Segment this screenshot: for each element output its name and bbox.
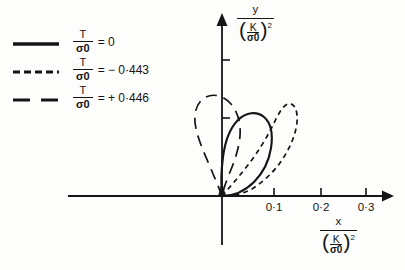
x-axis-title-numerator: x [330,216,348,230]
fraction-t-over-sigma0: T σ0 [73,29,93,54]
fraction-denominator: σ0 [73,42,93,54]
legend: T σ0 = 0 T σ0 = − 0·443 [12,32,182,116]
solid-line-sample [12,41,60,47]
y-axis-title-numerator: y [247,4,265,18]
legend-value: = + 0·446 [98,91,149,105]
inner-numerator: K [250,22,257,33]
fraction-denominator: σ0 [73,70,93,82]
long-dashed-line-sample [12,97,60,103]
legend-item-t-zero: T σ0 = 0 [12,32,182,60]
y-axis-arrow-icon [217,13,228,26]
legend-label-t-positive: T σ0 = + 0·446 [72,85,149,110]
legend-item-t-positive: T σ0 = + 0·446 [12,88,182,116]
short-dashed-line-sample [12,69,60,75]
fraction-numerator: T [76,85,89,97]
x-axis-title-fraction: x ( K σ0 ) 2 [320,216,357,255]
left-paren: ( [322,233,329,251]
curve-t-positive-0446 [195,95,240,196]
y-axis-title-fraction: y ( K σ0 ) 2 [237,4,274,43]
k-over-sigma0-fraction: K σ0 [329,233,343,256]
x-tick-label-0.3: 0·3 [351,201,381,213]
right-paren: ) [343,233,350,251]
x-axis-arrow-icon [382,191,394,202]
right-paren: ) [260,21,267,39]
fraction-numerator: T [76,57,89,69]
y-axis-title: y ( K σ0 ) 2 [237,4,274,43]
fraction-t-over-sigma0: T σ0 [73,57,93,82]
x-axis-title-denominator: ( K σ0 ) 2 [320,231,357,256]
x-tick-label-0.2: 0·2 [306,201,336,213]
inner-denominator: σ0 [330,245,342,255]
legend-value: = 0 [98,35,115,49]
fraction-numerator: T [76,29,89,41]
inner-numerator: K [333,234,340,245]
inner-denominator: σ0 [247,33,259,43]
legend-label-t-negative: T σ0 = − 0·443 [72,57,149,82]
x-axis-title: x ( K σ0 ) 2 [320,216,357,255]
x-tick-label-0.1: 0·1 [259,201,289,213]
exponent: 2 [267,22,271,30]
legend-label-t-zero: T σ0 = 0 [72,29,115,54]
fraction-denominator: σ0 [73,98,93,110]
exponent: 2 [350,234,354,242]
legend-value: = − 0·443 [98,63,149,77]
legend-item-t-negative: T σ0 = − 0·443 [12,60,182,88]
curve-t-zero [221,113,271,196]
figure-container: T σ0 = 0 T σ0 = − 0·443 [0,0,405,270]
fraction-t-over-sigma0: T σ0 [73,85,93,110]
k-over-sigma0-fraction: K σ0 [246,21,260,44]
y-axis-title-denominator: ( K σ0 ) 2 [237,19,274,44]
left-paren: ( [239,21,246,39]
curve-t-negative-0443 [222,104,297,197]
